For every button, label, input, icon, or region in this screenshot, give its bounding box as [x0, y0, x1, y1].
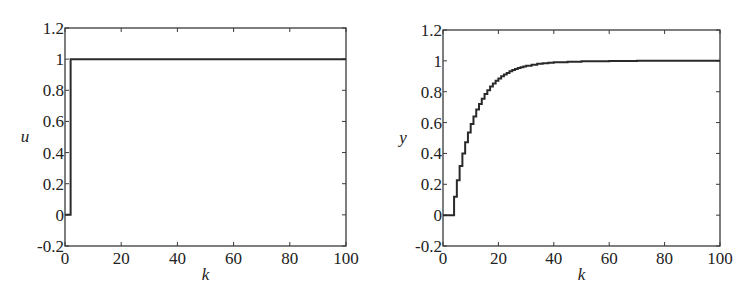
x-tick-label: 100: [333, 249, 359, 268]
chart-y-output: 020406080100-0.200.20.40.60.811.2ky: [397, 21, 733, 284]
x-tick-label: 40: [169, 249, 186, 268]
y-tick-label: -0.2: [415, 237, 442, 256]
x-axis-label: k: [578, 265, 586, 284]
y-tick-label: 0.4: [43, 144, 65, 163]
x-tick-label: 20: [490, 249, 507, 268]
chart-u-input: 020406080100-0.200.20.40.60.811.2ku: [21, 19, 359, 284]
y-tick-label: 0.8: [43, 81, 64, 100]
y-tick-label: 1.2: [421, 21, 442, 40]
x-tick-label: 80: [656, 249, 673, 268]
y-tick-label: -0.2: [37, 237, 64, 256]
y-tick-label: 0.4: [421, 144, 443, 163]
x-tick-label: 20: [113, 249, 130, 268]
y-axis-label: y: [397, 128, 407, 147]
x-tick-label: 60: [225, 249, 242, 268]
y-tick-label: 0.2: [421, 175, 442, 194]
y-tick-label: 1: [434, 52, 443, 71]
y-tick-label: 0.6: [43, 112, 64, 131]
series-line-u: [65, 59, 346, 215]
y-tick-label: 0.8: [421, 83, 442, 102]
y-tick-label: 1.2: [43, 19, 64, 38]
y-tick-label: 1: [56, 50, 65, 69]
series-line-y: [443, 61, 720, 215]
y-tick-label: 0.2: [43, 175, 64, 194]
x-tick-label: 40: [545, 249, 562, 268]
plot-frame: [65, 28, 346, 246]
x-tick-label: 60: [601, 249, 618, 268]
y-tick-label: 0: [434, 206, 443, 225]
x-tick-label: 100: [707, 249, 733, 268]
x-axis-label: k: [202, 265, 210, 284]
y-tick-label: 0.6: [421, 114, 442, 133]
figure: 020406080100-0.200.20.40.60.811.2ku 0204…: [0, 0, 746, 295]
x-tick-label: 80: [281, 249, 298, 268]
y-tick-label: 0: [56, 206, 65, 225]
chart-canvas: 020406080100-0.200.20.40.60.811.2ku 0204…: [0, 0, 746, 295]
y-axis-label: u: [21, 127, 30, 146]
